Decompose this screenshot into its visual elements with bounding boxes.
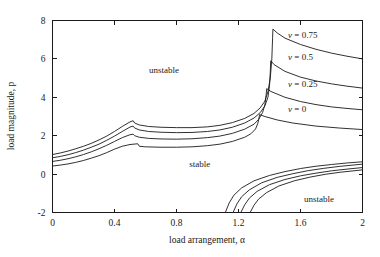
x-tick-label: 0.4 [109, 218, 121, 228]
series-label-nu-0.25: ν = 0.25 [288, 79, 318, 89]
region-label-stable: stable [189, 159, 210, 169]
series-label-nu-0: ν = 0 [288, 104, 307, 114]
y-tick-label: 2 [41, 131, 46, 141]
chart-figure: 00.40.81.21.62 -202468 unstablestableuns… [0, 0, 380, 257]
x-tick-label: 1.2 [233, 218, 245, 228]
series-label-nu-0.5: ν = 0.5 [288, 52, 313, 62]
x-axis-title: load arrangement, α [169, 235, 245, 245]
region-label-unstable-lower: unstable [304, 194, 334, 204]
x-tick-label: 2 [360, 218, 365, 228]
chart-svg: 00.40.81.21.62 -202468 unstablestableuns… [0, 0, 380, 257]
y-tick-label: 8 [41, 16, 46, 26]
x-tick-label: 0.8 [171, 218, 183, 228]
series-label-nu-0.75: ν = 0.75 [288, 30, 318, 40]
y-tick-label: 0 [41, 170, 46, 180]
y-tick-label: 4 [41, 93, 46, 103]
y-tick-label: -2 [38, 208, 46, 218]
region-label-unstable-upper: unstable [149, 65, 179, 75]
figure-background [0, 0, 380, 257]
y-tick-label: 6 [41, 54, 46, 64]
x-tick-label: 1.6 [295, 218, 307, 228]
x-tick-label: 0 [50, 218, 55, 228]
y-axis-title: load magnitude, p [6, 82, 16, 151]
